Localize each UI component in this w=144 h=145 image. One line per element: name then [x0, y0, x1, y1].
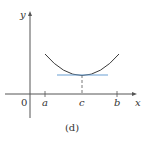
y-axis-arrow-icon — [28, 11, 32, 16]
x-axis-arrow-icon — [132, 92, 137, 96]
origin-label: 0 — [21, 97, 27, 108]
tick-label-c: c — [79, 97, 85, 108]
figure-canvas: y x 0 a c b (d) — [0, 0, 144, 145]
tick-label-a: a — [42, 97, 48, 108]
y-axis-label: y — [19, 9, 26, 20]
tick-label-b: b — [114, 97, 120, 108]
x-axis-label: x — [135, 97, 141, 108]
curve — [45, 54, 119, 76]
figure-caption: (d) — [65, 122, 79, 133]
